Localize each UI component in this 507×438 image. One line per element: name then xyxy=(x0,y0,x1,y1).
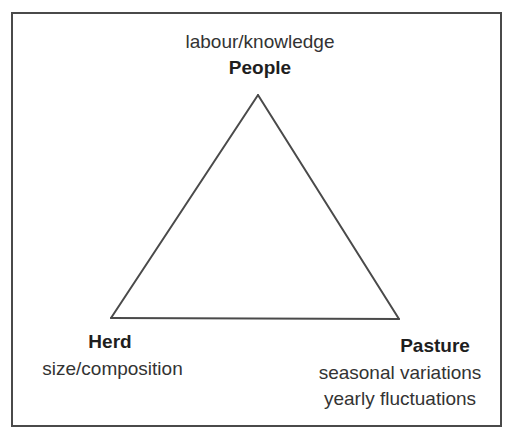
edge-herd-pasture xyxy=(111,318,399,319)
edge-pasture-people xyxy=(258,95,399,319)
herd-title: Herd xyxy=(70,331,150,353)
people-subtitle: labour/knowledge xyxy=(155,31,365,53)
pasture-title: Pasture xyxy=(395,335,475,357)
pasture-subtitle-line-1: seasonal variations xyxy=(305,362,495,384)
people-title: People xyxy=(155,57,365,79)
pasture-subtitle-line-2: yearly fluctuations xyxy=(305,388,495,410)
herd-subtitle: size/composition xyxy=(20,358,205,380)
edge-people-herd xyxy=(111,95,258,318)
